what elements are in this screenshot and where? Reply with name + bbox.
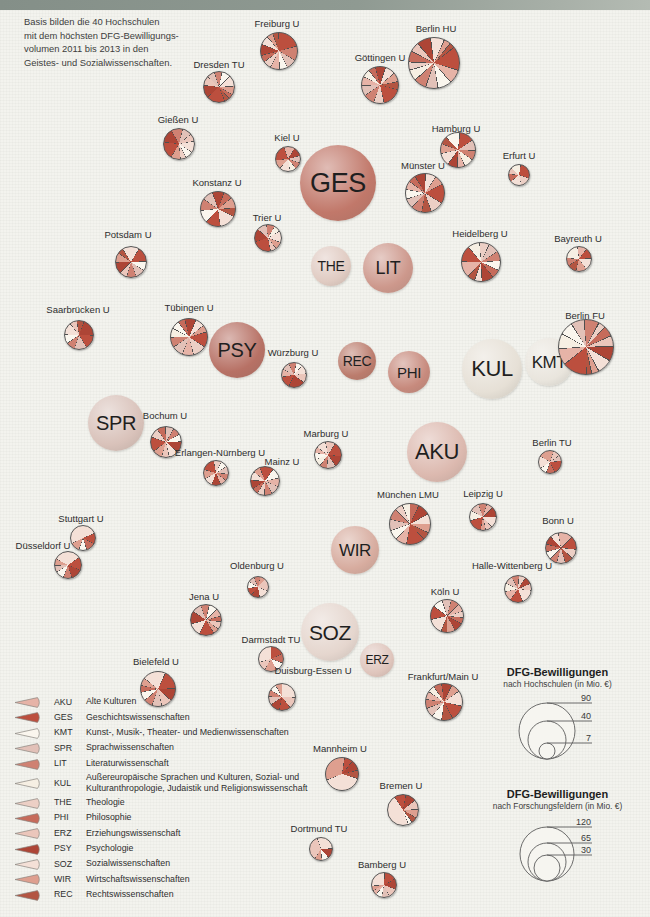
svg-text:40: 40 [581, 711, 591, 721]
label-potsdam-u: Potsdam U [105, 229, 152, 240]
label-hamburg-u: Hamburg U [432, 123, 481, 134]
pie-konstanz-u [200, 191, 236, 227]
field-circle-kul: KUL [462, 339, 522, 399]
pie-d-sseldorf-u [54, 551, 82, 579]
legend-code-kul: KUL [54, 778, 86, 788]
pie-oldenburg-u [247, 576, 269, 598]
legend-item-phi: PHIPhilosophie [14, 811, 349, 824]
legend-code-wir: WIR [54, 874, 86, 884]
legend-name-kul: Außereuropäische Sprachen und Kulturen, … [86, 772, 308, 793]
field-circle-label-rec: REC [343, 354, 371, 368]
svg-text:120: 120 [576, 817, 591, 827]
label-freiburg-u: Freiburg U [255, 18, 300, 29]
pie-kiel-u [275, 146, 301, 172]
legend-wedge-icon-the [14, 796, 44, 809]
legend-name-ges: Geschichtswissenschaften [86, 712, 190, 723]
svg-text:30: 30 [581, 845, 591, 855]
field-circle-the: THE [311, 246, 351, 286]
label-bielefeld-u: Bielefeld U [133, 656, 179, 667]
legend-item-kmt: KMTKunst-, Musik-, Theater- und Medienwi… [14, 726, 349, 739]
label-darmstadt-tu: Darmstadt TU [242, 634, 301, 645]
pie-potsdam-u [115, 246, 147, 278]
pie-saarbr-cken-u [64, 320, 94, 350]
legend-code-aku: AKU [54, 697, 86, 707]
pie-bremen-u [387, 794, 419, 826]
legend-wedge-icon-kmt [14, 726, 44, 739]
pie-berlin-hu [408, 37, 460, 89]
pie-jena-u [190, 604, 222, 636]
legend-code-phi: PHI [54, 812, 86, 822]
label-gie-en-u: Gießen U [158, 114, 199, 125]
label-bonn-u: Bonn U [542, 515, 574, 526]
field-circle-label-the: THE [318, 259, 345, 273]
label-duisburg-essen-u: Duisburg-Essen U [274, 665, 351, 676]
legend-item-rec: RECRechtswissenschaften [14, 888, 349, 901]
label-bochum-u: Bochum U [143, 410, 187, 421]
legend-item-kul: KULAußereuropäische Sprachen und Kulture… [14, 772, 349, 793]
pie-m-nster-u [405, 173, 445, 213]
pie-hamburg-u [440, 132, 476, 168]
pie-w-rzburg-u [281, 362, 307, 388]
label-d-sseldorf-u: Düsseldorf U [16, 540, 71, 551]
pie-freiburg-u [260, 32, 298, 70]
field-circle-label-erz: ERZ [366, 654, 389, 666]
label-berlin-hu: Berlin HU [416, 23, 457, 34]
field-circle-ges: GES [300, 145, 376, 221]
label-dresden-tu: Dresden TU [193, 59, 244, 70]
legend-wedge-icon-psy [14, 842, 44, 855]
legend-wedge-icon-phi [14, 811, 44, 824]
legend-code-rec: REC [54, 889, 86, 899]
pie-marburg-u [314, 441, 342, 469]
legend-wedge-icon-wir [14, 872, 44, 885]
legend-item-ges: GESGeschichtswissenschaften [14, 710, 349, 723]
field-circle-wir: WIR [331, 526, 379, 574]
field-circle-erz: ERZ [360, 643, 394, 677]
field-circle-label-soz: SOZ [309, 622, 351, 643]
label-bayreuth-u: Bayreuth U [554, 233, 602, 244]
intro-line-4: Geistes- und Sozialwissenschaften. [24, 56, 209, 70]
label-trier-u: Trier U [253, 212, 282, 223]
field-circle-aku: AKU [407, 422, 467, 482]
legend-item-aku: AKUAlte Kulturen [14, 695, 349, 708]
label-konstanz-u: Konstanz U [192, 177, 241, 188]
pie-halle-wittenberg-u [504, 575, 532, 603]
legend-name-rec: Rechtswissenschaften [86, 889, 174, 900]
label-berlin-tu: Berlin TU [532, 437, 571, 448]
pie-dresden-tu [203, 71, 235, 103]
legend-code-the: THE [54, 797, 86, 807]
legend-item-erz: ERZErziehungswissenschaft [14, 826, 349, 839]
pie-berlin-fu [558, 319, 614, 375]
svg-text:90: 90 [581, 693, 591, 703]
size-legend-forschungsfelder-circles: 1206530 [470, 813, 645, 889]
legend-code-kmt: KMT [54, 727, 86, 737]
label-w-rzburg-u: Würzburg U [268, 347, 319, 358]
legend-code-ges: GES [54, 712, 86, 722]
pie-leipzig-u [469, 503, 497, 531]
pie-k-ln-u [430, 599, 464, 633]
pie-erfurt-u [508, 164, 530, 186]
legend-name-erz: Erziehungswissenschaft [86, 828, 180, 839]
legend-wedge-icon-erz [14, 826, 44, 839]
pie-mainz-u [250, 466, 280, 496]
field-circle-label-spr: SPR [96, 413, 136, 433]
pie-trier-u [254, 224, 282, 252]
size-legend-hochschulen-title: DFG-Bewilligungen [470, 666, 645, 678]
legend-item-spr: SPRSprachwissenschaften [14, 741, 349, 754]
label-oldenburg-u: Oldenburg U [230, 560, 284, 571]
field-circle-phi: PHI [388, 351, 430, 393]
intro-line-2: mit dem höchsten DFG-Bewilligungs- [24, 29, 209, 43]
legend-name-phi: Philosophie [86, 812, 131, 823]
legend-name-psy: Psychologie [86, 843, 133, 854]
legend-name-lit: Literaturwissenschaft [86, 758, 169, 769]
pie-g-ttingen-u [361, 66, 399, 104]
legend-item-lit: LITLiteraturwissenschaft [14, 757, 349, 770]
intro-line-3: volumen 2011 bis 2013 in den [24, 42, 209, 56]
pie-gie-en-u [163, 128, 195, 160]
legend-name-wir: Wirtschaftswissenschaften [86, 874, 190, 885]
legend-item-soz: SOZSozialwissenschaften [14, 857, 349, 870]
field-circle-label-ges: GES [310, 170, 366, 197]
label-mainz-u: Mainz U [265, 456, 300, 467]
intro-line-1: Basis bilden die 40 Hochschulen [24, 15, 209, 29]
infographic-canvas: Basis bilden die 40 Hochschulen mit dem … [0, 0, 650, 917]
label-marburg-u: Marburg U [304, 428, 349, 439]
